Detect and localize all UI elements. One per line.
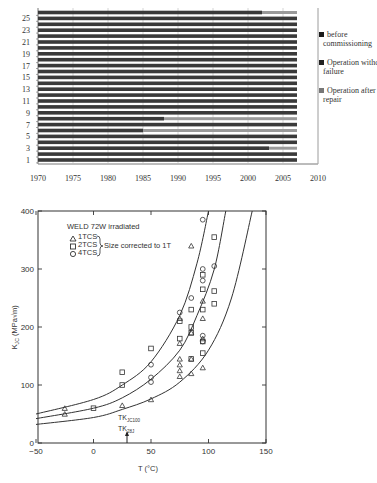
ylabel-main: K [10,344,19,349]
circle-point-icon [200,217,205,222]
bar-operation-without-failure [38,146,269,150]
y-tick-label: 0 [30,439,35,448]
x-tick-label: 2005 [275,174,291,183]
y-tick-label: 17 [22,62,30,71]
legend-label-line1: Operation without [323,58,377,67]
triangle-point-icon [120,403,125,408]
y-tick-label: 21 [22,38,30,47]
x-tick-label: 1985 [135,174,151,183]
bar-operation-without-failure [38,46,297,50]
x-tick-label: −50 [29,447,43,456]
y-tick-label: 19 [22,50,30,59]
x-tick-label: 50 [147,447,156,456]
bar-operation-without-failure [38,111,297,115]
y-tick-label: 25 [22,14,30,23]
tk-marker-labels: TKJC100 TK28J [118,414,140,437]
tk-28j-sub: 28J [127,430,134,435]
legend-item-before-commissioning: before commissioning [323,30,377,48]
bar-operation-after-repair [164,117,297,120]
bar-operation-without-failure [38,87,297,91]
legend-brace [97,236,103,256]
circle-point-icon [189,296,194,301]
ylabel-unit: (MPa√m) [10,305,19,336]
bar-operation-without-failure [38,93,297,97]
bar-operation-without-failure [38,105,297,109]
timeline-bar-chart: 135791113151719212325 197019751980198519… [22,8,326,183]
y-tick-label: 11 [22,97,30,106]
figure-canvas: 135791113151719212325 197019751980198519… [0,0,377,483]
square-marker-icon [71,244,76,249]
legend-4tcs: 4TCS [78,249,97,257]
circle-point-icon [200,339,205,344]
legend-swatch-without-failure [319,60,324,65]
y-tick-label: 5 [26,132,30,141]
bottom-x-axis-label: T (°C) [138,464,158,473]
x-tick-label: 1975 [65,174,81,183]
x-tick-label: 0 [91,447,96,456]
bar-operation-without-failure [38,17,297,21]
y-tick-label: 1 [26,156,30,165]
circle-point-icon [149,362,154,367]
triangle-point-icon [177,341,182,346]
x-tick-label: 2010 [310,174,326,183]
x-tick-label: 1990 [170,174,186,183]
y-tick-label: 3 [26,144,30,153]
bar-operation-without-failure [38,11,262,15]
bar-operation-without-failure [38,82,297,86]
circle-point-icon [149,380,154,385]
bar-operation-without-failure [38,135,297,139]
bottom-legend-note: Size corrected to 1T [104,241,171,250]
top-bars [38,11,297,162]
bar-operation-without-failure [38,23,297,27]
circle-point-icon [200,267,205,272]
square-point-icon [200,273,205,278]
legend-item-operation-without-failure: Operation without failure [323,58,377,76]
legend-item-operation-after-repair: Operation after repair [323,86,377,104]
tk-jc100-label: TK [118,414,127,421]
x-tick-label: 1995 [205,174,221,183]
bar-operation-without-failure [38,58,297,62]
circle-marker-icon [70,251,75,256]
triangle-point-icon [177,357,182,362]
top-legend: before commissioning Operation without f… [323,30,377,104]
triangle-point-icon [177,374,182,379]
triangle-point-icon [177,368,182,373]
triangle-point-icon [200,365,205,370]
triangle-point-icon [189,357,194,362]
x-tick-label: 150 [259,447,273,456]
x-tick-label: 1980 [100,174,116,183]
square-point-icon [212,302,217,307]
top-x-tick-labels: 197019751980198519901995200020052010 [30,174,326,183]
square-point-icon [189,307,194,312]
bar-operation-without-failure [38,129,143,133]
tk-jc100-sub: JC100 [127,418,140,423]
bar-operation-without-failure [38,141,297,145]
y-tick-label: 9 [26,109,30,118]
legend-swatch-before [319,32,324,37]
x-tick-label: 100 [202,447,216,456]
bar-operation-after-repair [262,11,297,14]
legend-label-line2: commissioning [323,39,377,48]
y-tick-label: 100 [21,381,35,390]
triangle-point-icon [200,316,205,321]
y-tick-label: 300 [21,265,35,274]
ylabel-sub: JC [14,338,20,344]
bar-operation-without-failure [38,99,297,103]
x-tick-label: 2000 [240,174,256,183]
triangle-point-icon [177,362,182,367]
bottom-chart-title: WELD 72W irradiated [67,222,140,231]
legend-label-line2: repair [323,95,377,104]
bar-operation-without-failure [38,34,297,38]
y-tick-label: 400 [21,207,35,216]
triangle-marker-icon [70,236,76,241]
bottom-legend-labels: 1TCS 2TCS 4TCS [78,233,97,257]
tk-28j-label: TK [118,425,127,432]
y-tick-label: 13 [22,85,30,94]
top-y-tick-labels: 135791113151719212325 [22,14,38,165]
bar-operation-without-failure [38,123,297,127]
legend-swatch-after-repair [319,88,324,93]
x-tick-label: 1970 [30,174,46,183]
square-point-icon [149,346,154,351]
square-point-icon [120,370,125,375]
square-point-icon [200,351,205,356]
